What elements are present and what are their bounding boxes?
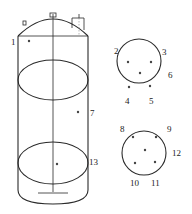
sample-point-11 — [154, 161, 156, 163]
label-7: 7 — [90, 108, 95, 118]
label-12: 12 — [172, 148, 181, 158]
sample-point-10 — [134, 162, 136, 164]
label-4: 4 — [125, 96, 130, 106]
lower-section-circle — [122, 131, 166, 175]
label-1: 1 — [11, 37, 16, 47]
sample-point-5 — [149, 85, 151, 87]
label-5: 5 — [149, 96, 154, 106]
sample-point-7 — [77, 111, 79, 113]
upper-section-circle — [117, 39, 161, 83]
upper-cross-section: 2 3 4 5 6 — [114, 39, 173, 106]
label-11: 11 — [151, 178, 160, 188]
sample-point-4 — [128, 86, 130, 88]
label-10: 10 — [130, 178, 140, 188]
label-6: 6 — [168, 70, 173, 80]
sample-point-center-lower — [144, 149, 146, 151]
sample-point-1 — [28, 40, 30, 42]
label-13: 13 — [89, 157, 99, 167]
lower-cross-section: 8 9 10 11 12 — [120, 124, 181, 188]
tank-sampling-diagram: 1 7 13 2 3 4 5 6 8 9 10 11 12 — [0, 0, 192, 214]
top-left-nozzle — [23, 21, 26, 25]
sample-point-13 — [56, 163, 58, 165]
label-8: 8 — [120, 124, 125, 134]
sample-point-2 — [127, 61, 129, 63]
label-9: 9 — [167, 124, 172, 134]
sample-point-3 — [150, 61, 152, 63]
sample-point-center-upper — [139, 72, 141, 74]
tank-bottom — [18, 190, 88, 204]
sample-point-9 — [155, 136, 157, 138]
tank: 1 7 13 — [11, 13, 99, 204]
label-3: 3 — [162, 47, 167, 57]
label-2: 2 — [114, 46, 119, 56]
sample-point-8 — [132, 136, 134, 138]
